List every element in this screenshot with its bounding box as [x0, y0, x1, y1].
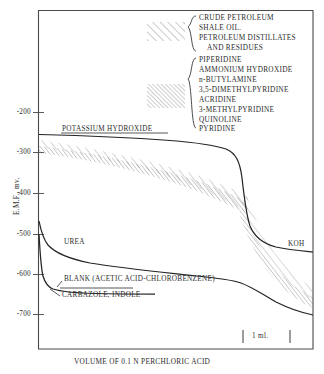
plot-canvas	[0, 0, 324, 374]
legend-item-acridine: ACRIDINE	[199, 96, 236, 105]
legend-item-n-butylamine: n-BUTYLAMINE	[199, 76, 257, 85]
legend-item-pyridine: PYRIDINE	[199, 125, 235, 134]
legend-item-crude-petroleum: CRUDE PETROLEUM	[199, 14, 274, 23]
legend-item-shale-oil: SHALE OIL.	[199, 24, 241, 33]
legend-item-methylpyridine: 3-METHYLPYRIDINE	[199, 106, 274, 115]
scale-bar-label: 1 ml.	[252, 332, 268, 340]
sparse-hatch-swatch	[147, 22, 185, 41]
y-tick-label-200: -200	[6, 108, 31, 116]
x-axis-title: VOLUME OF 0.1 N PERCHLORIC ACID	[74, 357, 210, 366]
legend-item-dimethylpyridine: 3,5-DIMETHYLPYRIDINE	[199, 86, 289, 95]
legend-brace-group-1	[188, 16, 196, 51]
curve-label-urea: UREA	[64, 238, 85, 246]
titration-curve-figure: -200 -300 -400 -500 -600 -700 E.M.F., mv…	[0, 0, 324, 374]
legend-item-ammonium-hydroxide: AMMONIUM HYDROXIDE	[199, 66, 293, 75]
y-axis-title: E.M.F., mv.	[12, 177, 21, 215]
legend-item-and-residues: AND RESIDUES	[207, 44, 263, 53]
y-tick-label-600: -600	[6, 270, 31, 278]
y-tick-label-500: -500	[6, 230, 31, 238]
y-tick-label-700: -700	[6, 310, 31, 318]
legend-brace-group-2	[188, 58, 196, 128]
y-tick-label-300: -300	[6, 148, 31, 156]
curve-label-potassium-hydroxide: POTASSIUM HYDROXIDE	[62, 125, 152, 133]
legend-item-petroleum-distillates: PETROLEUM DISTILLATES	[199, 34, 296, 43]
band-crude-petroleum-descent	[242, 196, 313, 300]
dense-hatch-swatch	[147, 84, 185, 108]
curve-label-blank: BLANK (ACETIC ACID-CHLOROBENZENE)	[64, 275, 215, 283]
curve-label-koh: KOH	[288, 240, 304, 248]
curve-label-carbazole-indole: CARBAZOLE, INDOLE	[62, 291, 141, 299]
legend-item-piperidine: PIPERIDINE	[199, 56, 242, 65]
band-amines	[39, 146, 246, 214]
